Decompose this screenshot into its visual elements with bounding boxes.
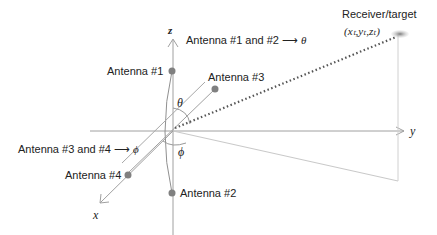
y-axis-label: y [410, 125, 415, 137]
receiver-label: Receiver/target [342, 9, 417, 20]
theta-angle-label: θ [177, 97, 183, 109]
x-axis-label: x [93, 209, 98, 221]
projection-line [173, 131, 398, 181]
antenna-3-dot [212, 86, 219, 93]
antenna-4-label: Antenna #4 [65, 170, 121, 181]
phi-pair-label: Antenna #3 and #4 [18, 143, 111, 155]
antenna-2-dot [169, 190, 176, 197]
phi-angle-label: ϕ [178, 146, 184, 158]
antenna-1-label: Antenna #1 [107, 66, 163, 77]
theta-annotation: Antenna #1 and #2 ⟶ θ [186, 35, 307, 46]
theta-symbol: θ [301, 34, 306, 46]
receiver-coords: (xₜ,yₜ,zₜ) [344, 26, 380, 37]
receiver-icon [391, 30, 409, 38]
theta-pair-label: Antenna #1 and #2 [186, 34, 279, 46]
y-axis [90, 127, 404, 135]
phi-symbol: ϕ [133, 143, 139, 155]
x-axis [100, 131, 173, 203]
arrow-icon: ⟶ [282, 34, 298, 46]
phi-annotation: Antenna #3 and #4 ⟶ ϕ [18, 144, 139, 155]
antenna-4-dot [125, 172, 132, 179]
arrow-icon: ⟶ [114, 143, 130, 155]
z-axis-label: z [168, 25, 172, 36]
antenna-2-label: Antenna #2 [180, 188, 236, 199]
antenna-1-dot [169, 68, 176, 75]
antenna-3-label: Antenna #3 [208, 72, 264, 83]
